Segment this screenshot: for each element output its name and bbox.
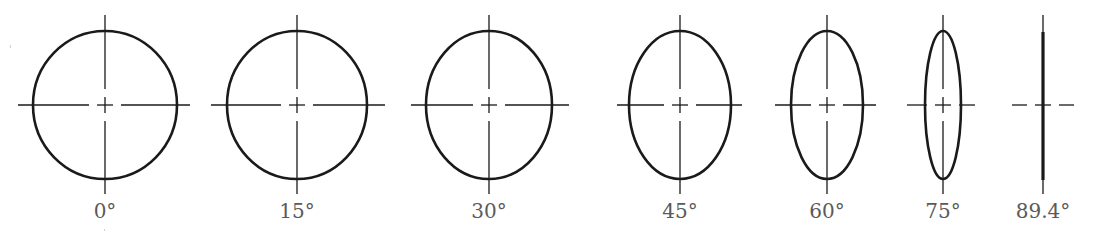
projection-15-deg [211,15,385,194]
angle-label: 15° [279,199,314,223]
projection-60-deg [775,15,876,194]
scan-artifact [104,229,105,231]
angle-label: 60° [809,199,844,223]
scan-artifact [10,45,11,48]
projection-89-4-deg [1012,15,1074,194]
projection-0-deg [18,15,190,194]
projection-30-deg [411,15,569,194]
angle-label: 75° [925,199,960,223]
angle-label: 45° [662,199,697,223]
angle-label: 30° [471,199,506,223]
projection-45-deg [617,15,742,194]
projection-75-deg [907,15,975,194]
angle-label: 0° [94,199,117,223]
angle-label: 89.4° [1016,199,1071,223]
